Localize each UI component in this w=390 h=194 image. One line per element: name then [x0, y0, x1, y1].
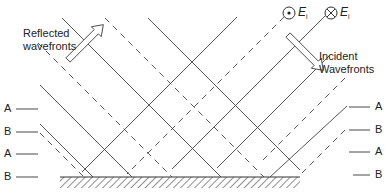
- field-into-page-icon: [325, 7, 337, 19]
- left-marker-4: B: [4, 170, 11, 183]
- left-marker-1: A: [4, 102, 11, 115]
- right-marker-4: B: [375, 168, 382, 181]
- left-marker-2: B: [4, 125, 11, 138]
- right-marker-1: A: [375, 100, 382, 113]
- right-marker-3: A: [375, 145, 382, 158]
- field-out-of-page-icon: [283, 7, 295, 19]
- left-marker-3: A: [4, 147, 11, 160]
- incident-label-line2: Wavefronts: [319, 63, 374, 76]
- right-marker-2: B: [375, 123, 382, 136]
- field-out-label: Ei: [298, 6, 308, 23]
- field-in-label: Ei: [340, 6, 350, 23]
- incident-label: Incident Wavefronts: [319, 50, 374, 76]
- ground-surface: [60, 177, 300, 188]
- wavefront-diagram: Reflected wavefronts Incident Wavefronts…: [0, 0, 390, 194]
- marker-ticks: [16, 107, 370, 177]
- reflected-label: Reflected wavefronts: [23, 27, 76, 53]
- reflected-label-line2: wavefronts: [23, 40, 76, 53]
- reflected-label-line1: Reflected: [23, 27, 76, 40]
- incident-label-line1: Incident: [319, 50, 374, 63]
